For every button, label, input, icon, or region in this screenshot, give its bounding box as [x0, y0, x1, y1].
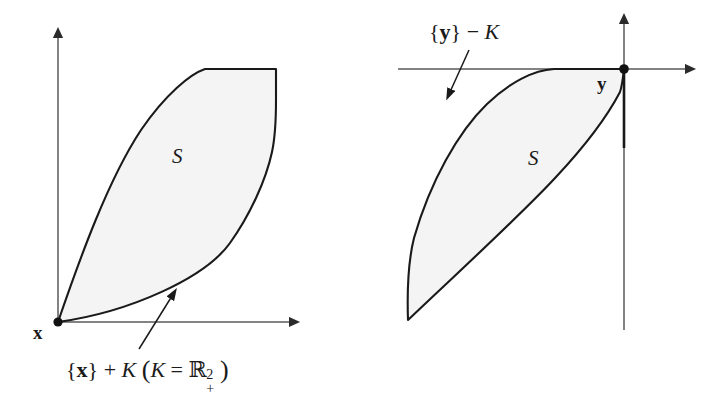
right-brace-open: { — [429, 19, 440, 44]
left-plus-operator: + — [104, 357, 116, 382]
left-cone-K-repeat: K — [150, 357, 165, 382]
left-equals-sign: = — [171, 357, 183, 382]
left-subscript-plus: + — [206, 381, 214, 395]
right-origin-dot — [619, 64, 629, 74]
left-region-label: S — [172, 146, 183, 167]
left-panel-group — [53, 35, 292, 349]
left-region-S — [58, 69, 276, 322]
right-panel-group — [398, 21, 688, 330]
figure-canvas: x S {x} + K (K = ℝ2+) y S {y} − K — [0, 0, 709, 402]
left-cone-K: K — [122, 357, 137, 382]
right-annotation-pointer — [450, 50, 469, 92]
right-origin-label: y — [597, 74, 607, 93]
left-origin-label: x — [33, 323, 43, 342]
right-cone-K: K — [485, 19, 500, 44]
left-annotation-expression: {x} + K (K = ℝ2+) — [66, 356, 229, 382]
left-paren-close: ) — [220, 355, 229, 384]
right-vector-y: y — [440, 19, 451, 44]
right-minus-operator: − — [467, 19, 479, 44]
right-region-label: S — [528, 148, 539, 169]
left-blackboard-r: ℝ — [189, 357, 207, 382]
right-brace-close: } — [451, 19, 462, 44]
left-brace-close: } — [88, 357, 99, 382]
left-origin-dot — [53, 317, 62, 326]
left-vector-x: x — [77, 357, 88, 382]
right-region-S — [408, 69, 624, 320]
left-superscript-2: 2 — [206, 367, 213, 381]
left-paren-open: ( — [142, 355, 151, 384]
figure-vector-graphics — [0, 0, 709, 402]
right-annotation-expression: {y} − K — [429, 21, 499, 43]
left-brace-open: { — [66, 357, 77, 382]
